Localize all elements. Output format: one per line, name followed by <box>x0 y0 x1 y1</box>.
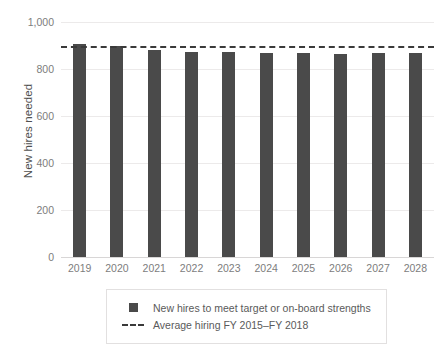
bar-chart: New hires needed 02004006008001,00020192… <box>0 0 442 360</box>
x-axis-tick-label: 2025 <box>292 262 315 274</box>
x-axis-tick-label: 2024 <box>254 262 277 274</box>
x-axis-tick-label: 2020 <box>105 262 128 274</box>
x-axis-tick-label: 2019 <box>68 262 91 274</box>
x-axis-tick-label: 2023 <box>217 262 240 274</box>
average-hiring-reference-line <box>61 46 434 48</box>
x-axis-tick-label: 2028 <box>404 262 427 274</box>
x-axis-tick-label: 2022 <box>180 262 203 274</box>
legend-label-average-line: Average hiring FY 2015–FY 2018 <box>147 319 308 331</box>
y-axis-tick-label: 400 <box>36 157 54 169</box>
x-axis-tick-label: 2027 <box>366 262 389 274</box>
y-gridline-0: 0 <box>61 257 434 258</box>
x-axis-tick-label: 2026 <box>329 262 352 274</box>
bar-2028[interactable] <box>409 53 422 257</box>
y-gridline-1000: 1,000 <box>61 22 434 23</box>
y-axis-title: New hires needed <box>22 51 34 211</box>
bar-2019[interactable] <box>73 44 86 257</box>
bar-2021[interactable] <box>148 50 161 257</box>
bar-2027[interactable] <box>372 53 385 257</box>
legend-item-bars[interactable]: New hires to meet target or on-board str… <box>119 299 374 316</box>
bar-2025[interactable] <box>297 53 310 257</box>
y-axis-tick-label: 200 <box>36 204 54 216</box>
bar-swatch-icon <box>119 303 147 312</box>
plot-area: 02004006008001,0002019202020212022202320… <box>61 22 434 257</box>
y-axis-tick-label: 0 <box>48 251 54 263</box>
bar-2026[interactable] <box>334 54 347 258</box>
y-axis-tick-label: 600 <box>36 110 54 122</box>
bar-2020[interactable] <box>110 46 123 257</box>
x-axis-tick-label: 2021 <box>143 262 166 274</box>
y-axis-tick-label: 800 <box>36 63 54 75</box>
y-axis-tick-label: 1,000 <box>28 16 54 28</box>
bar-2022[interactable] <box>185 52 198 257</box>
bar-2023[interactable] <box>222 52 235 257</box>
dashed-line-swatch-icon <box>119 324 147 326</box>
chart-legend: New hires to meet target or on-board str… <box>106 289 387 344</box>
legend-item-average-line[interactable]: Average hiring FY 2015–FY 2018 <box>119 316 374 333</box>
legend-label-bars: New hires to meet target or on-board str… <box>147 302 371 314</box>
bar-2024[interactable] <box>260 53 273 257</box>
